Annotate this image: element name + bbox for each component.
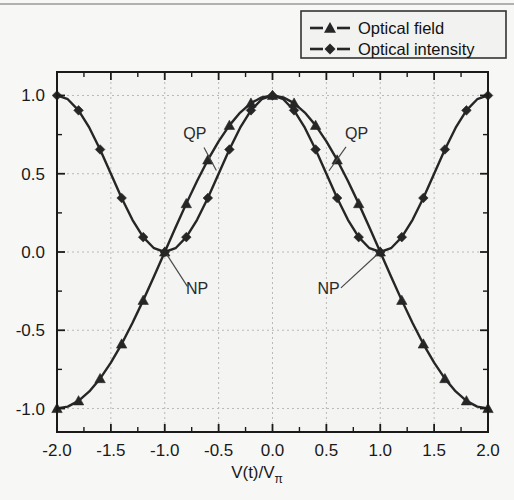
legend-label-1: Optical intensity	[358, 40, 475, 58]
x-tick-label: 2.0	[476, 441, 500, 460]
y-axis-tick-labels: -1.0-0.50.00.51.0	[16, 86, 45, 418]
y-tick-label: -1.0	[16, 400, 45, 419]
x-tick-label: 1.0	[368, 441, 392, 460]
annotation-label: QP	[183, 125, 206, 142]
x-tick-label: -0.5	[204, 441, 233, 460]
x-tick-label: -1.5	[96, 441, 125, 460]
x-tick-label: 0.5	[315, 441, 339, 460]
annotation-label: QP	[345, 125, 368, 142]
y-tick-label: 0.0	[21, 243, 45, 262]
y-tick-label: 0.5	[21, 165, 45, 184]
y-tick-label: -0.5	[16, 321, 45, 340]
legend-label-0: Optical field	[358, 19, 444, 37]
legend-box: Optical fieldOptical intensity	[301, 11, 506, 58]
chart-figure: -2.0-1.5-1.0-0.50.00.51.01.52.0 -1.0-0.5…	[0, 0, 514, 500]
x-tick-label: 1.5	[422, 441, 446, 460]
x-tick-label: -2.0	[42, 441, 71, 460]
annotation-label: NP	[186, 280, 208, 297]
y-tick-label: 1.0	[21, 86, 45, 105]
x-axis-tick-labels: -2.0-1.5-1.0-0.50.00.51.01.52.0	[42, 441, 499, 460]
x-axis-title: V(t)/Vπ	[231, 463, 283, 486]
x-tick-label: 0.0	[261, 441, 285, 460]
plot-canvas: -2.0-1.5-1.0-0.50.00.51.01.52.0 -1.0-0.5…	[0, 0, 514, 500]
grid-layer	[57, 72, 488, 432]
annotation-label: NP	[317, 280, 339, 297]
x-tick-label: -1.0	[150, 441, 179, 460]
